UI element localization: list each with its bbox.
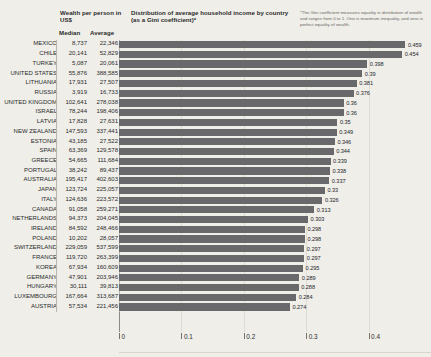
- gini-value-label: 0.297: [307, 255, 321, 261]
- gini-bar[interactable]: [119, 284, 299, 291]
- table-row[interactable]: MEXICO8,73722,3460.459: [0, 40, 431, 50]
- gini-bar[interactable]: [119, 51, 402, 58]
- gini-bar[interactable]: [119, 303, 290, 310]
- gini-bar[interactable]: [119, 187, 325, 194]
- average-wealth-value: 537,599: [89, 244, 118, 250]
- gini-value-label: 0.289: [302, 275, 316, 281]
- table-row[interactable]: UNITED STATES55,876388,5850.39: [0, 69, 431, 79]
- gini-value-label: 0.298: [307, 236, 321, 242]
- gini-value-label: 0.39: [365, 71, 376, 77]
- table-row[interactable]: AUSTRALIA195,417402,6030.337: [0, 176, 431, 186]
- table-row[interactable]: LUXEMBOURG167,664313,6870.284: [0, 293, 431, 303]
- median-wealth-value: 119,720: [57, 254, 87, 260]
- table-row[interactable]: RUSSIA3,91916,7330.376: [0, 89, 431, 99]
- gini-bar[interactable]: [119, 274, 299, 281]
- average-wealth-value: 20,061: [89, 60, 118, 66]
- table-row[interactable]: LATVIA17,82827,6310.35: [0, 118, 431, 128]
- median-wealth-value: 54,665: [57, 157, 87, 163]
- table-row[interactable]: FRANCE119,720263,3990.297: [0, 254, 431, 264]
- table-row[interactable]: NEW ZEALAND147,593337,4410.349: [0, 127, 431, 137]
- gini-bar[interactable]: [119, 216, 308, 223]
- gini-value-label: 0.284: [299, 294, 313, 300]
- bar-container: 0.337: [119, 176, 431, 186]
- table-row[interactable]: AUSTRIA57,534221,4560.274: [0, 302, 431, 312]
- table-row[interactable]: IRELAND84,592248,4660.298: [0, 225, 431, 235]
- table-row[interactable]: POLAND10,20228,0570.298: [0, 234, 431, 244]
- gini-bar[interactable]: [119, 177, 329, 184]
- tick-label: 0.1: [184, 333, 193, 340]
- table-row[interactable]: CHILE20,14152,8290.454: [0, 50, 431, 60]
- country-label: LATVIA: [2, 118, 57, 124]
- table-row[interactable]: CANADA91,058259,2710.313: [0, 205, 431, 215]
- table-row[interactable]: KOREA67,934160,6090.295: [0, 264, 431, 274]
- gini-bar[interactable]: [119, 80, 357, 87]
- table-row[interactable]: GREECE54,665111,6840.339: [0, 157, 431, 167]
- gini-value-label: 0.35: [340, 119, 351, 125]
- table-row[interactable]: LITHUANIA17,93127,5070.381: [0, 79, 431, 89]
- tick-label: 0: [122, 333, 126, 340]
- table-row[interactable]: NETHERLANDS94,373204,0450.303: [0, 215, 431, 225]
- gini-bar[interactable]: [119, 294, 296, 301]
- gini-bar[interactable]: [119, 129, 337, 136]
- gini-bar[interactable]: [119, 197, 322, 204]
- average-wealth-value: 27,631: [89, 118, 118, 124]
- country-label: PORTUGAL: [2, 167, 57, 173]
- country-label: TURKEY: [2, 60, 57, 66]
- country-label: GREECE: [2, 157, 57, 163]
- gini-value-label: 0.398: [370, 61, 384, 67]
- gini-bar[interactable]: [119, 245, 304, 252]
- table-row[interactable]: TURKEY5,08720,0610.398: [0, 59, 431, 69]
- table-row[interactable]: PORTUGAL38,24289,4370.338: [0, 166, 431, 176]
- average-wealth-value: 259,271: [89, 206, 118, 212]
- table-row[interactable]: UNITED KINGDOM102,641278,0380.36: [0, 98, 431, 108]
- table-row[interactable]: SWITZERLAND229,059537,5990.297: [0, 244, 431, 254]
- table-row[interactable]: HUNGARY30,11139,8130.288: [0, 283, 431, 293]
- gini-bar[interactable]: [119, 41, 405, 48]
- gini-value-label: 0.36: [346, 110, 357, 116]
- bar-container: 0.349: [119, 127, 431, 137]
- table-row[interactable]: ITALY124,636223,5720.326: [0, 196, 431, 206]
- table-row[interactable]: JAPAN123,724225,0570.33: [0, 186, 431, 196]
- bar-container: 0.346: [119, 137, 431, 147]
- gini-bar[interactable]: [119, 255, 304, 262]
- tick-mark: [244, 333, 245, 339]
- gini-bar[interactable]: [119, 99, 344, 106]
- gini-bar[interactable]: [119, 167, 330, 174]
- bar-container: 0.298: [119, 225, 431, 235]
- tick-mark: [306, 333, 307, 339]
- gini-value-label: 0.36: [346, 100, 357, 106]
- country-label: CANADA: [2, 206, 57, 212]
- gini-bar[interactable]: [119, 90, 354, 97]
- median-wealth-value: 91,058: [57, 206, 87, 212]
- median-wealth-value: 43,185: [57, 138, 87, 144]
- gini-bar[interactable]: [119, 70, 362, 77]
- median-wealth-value: 20,141: [57, 50, 87, 56]
- gini-value-label: 0.326: [325, 197, 339, 203]
- table-row[interactable]: ISRAEL78,244198,4060.36: [0, 108, 431, 118]
- gini-bar[interactable]: [119, 148, 334, 155]
- gini-bar[interactable]: [119, 235, 305, 242]
- table-row[interactable]: ESTONIA43,18527,5220.346: [0, 137, 431, 147]
- country-label: POLAND: [2, 235, 57, 241]
- gini-value-label: 0.381: [359, 80, 373, 86]
- bar-container: 0.459: [119, 40, 431, 50]
- gini-bar[interactable]: [119, 60, 367, 67]
- gini-bar[interactable]: [119, 226, 305, 233]
- average-wealth-value: 337,441: [89, 128, 118, 134]
- median-column-label: Median: [59, 29, 87, 36]
- gini-footnote: *The Gini coefficient measures equality …: [300, 10, 428, 29]
- bar-container: 0.454: [119, 50, 431, 60]
- median-wealth-value: 195,417: [57, 176, 87, 182]
- average-wealth-value: 39,813: [89, 283, 118, 289]
- table-row[interactable]: GERMANY47,901203,9460.289: [0, 273, 431, 283]
- average-wealth-value: 204,045: [89, 215, 118, 221]
- table-row[interactable]: SPAIN63,369129,5780.344: [0, 147, 431, 157]
- country-label: LITHUANIA: [2, 79, 57, 85]
- gini-bar[interactable]: [119, 119, 337, 126]
- gini-bar[interactable]: [119, 138, 335, 145]
- gini-value-label: 0.344: [336, 148, 350, 154]
- gini-bar[interactable]: [119, 109, 344, 116]
- gini-bar[interactable]: [119, 265, 303, 272]
- gini-bar[interactable]: [119, 158, 331, 165]
- gini-bar[interactable]: [119, 206, 314, 213]
